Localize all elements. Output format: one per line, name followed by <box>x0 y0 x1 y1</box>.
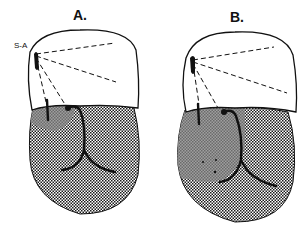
atrium-b <box>183 32 297 112</box>
av-node-a <box>65 105 71 111</box>
panel-a: A. S-A <box>14 7 139 214</box>
av-node-b <box>221 109 227 115</box>
heart-diagram: A. S-A <box>0 0 308 230</box>
panel-b: B. <box>176 9 297 222</box>
ventricle-b <box>176 104 295 222</box>
panel-a-label: A. <box>73 7 87 23</box>
ventricle-a <box>29 104 139 215</box>
atrium-a: S-A <box>14 30 139 110</box>
sa-node-label: S-A <box>14 41 28 50</box>
panel-b-label: B. <box>230 9 244 25</box>
